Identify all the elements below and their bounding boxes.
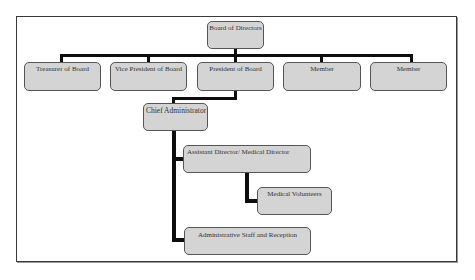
- node-admin-staff: Administrative Staff and Reception: [184, 227, 311, 255]
- connector-vice-president: [147, 54, 150, 62]
- node-label: Vice President of Board: [115, 65, 182, 73]
- node-label: Member: [310, 65, 334, 73]
- node-label: Board of Directors: [209, 24, 261, 32]
- node-chief-administrator: Chief Administrator: [143, 103, 208, 131]
- node-label: Administrative Staff and Reception: [198, 231, 297, 239]
- node-member-1: Member: [283, 62, 361, 91]
- node-label: Assistant Director/ Medical Director: [187, 148, 289, 156]
- node-medical-volunteers: Medical Volunteers: [257, 187, 332, 215]
- connector-member-1: [320, 54, 323, 62]
- node-board-of-directors: Board of Directors: [207, 21, 264, 49]
- node-assistant-director: Assistant Director/ Medical Director: [183, 145, 311, 173]
- node-treasurer: Treasurer of Board: [24, 62, 101, 91]
- connector-member-2: [410, 54, 413, 62]
- node-president: President of Board: [197, 62, 274, 91]
- node-label: Chief Administrator: [146, 106, 206, 115]
- node-vice-president: Vice President of Board: [110, 62, 187, 91]
- connector-president: [234, 54, 237, 62]
- node-label: Member: [397, 65, 421, 73]
- connector-chief-trunk: [172, 130, 176, 242]
- node-label: President of Board: [209, 65, 262, 73]
- connector-treasurer: [60, 54, 63, 62]
- node-label: Treasurer of Board: [36, 65, 89, 73]
- connector-president-horizontal: [172, 97, 237, 100]
- node-label: Medical Volunteers: [267, 190, 321, 198]
- node-member-2: Member: [370, 62, 447, 91]
